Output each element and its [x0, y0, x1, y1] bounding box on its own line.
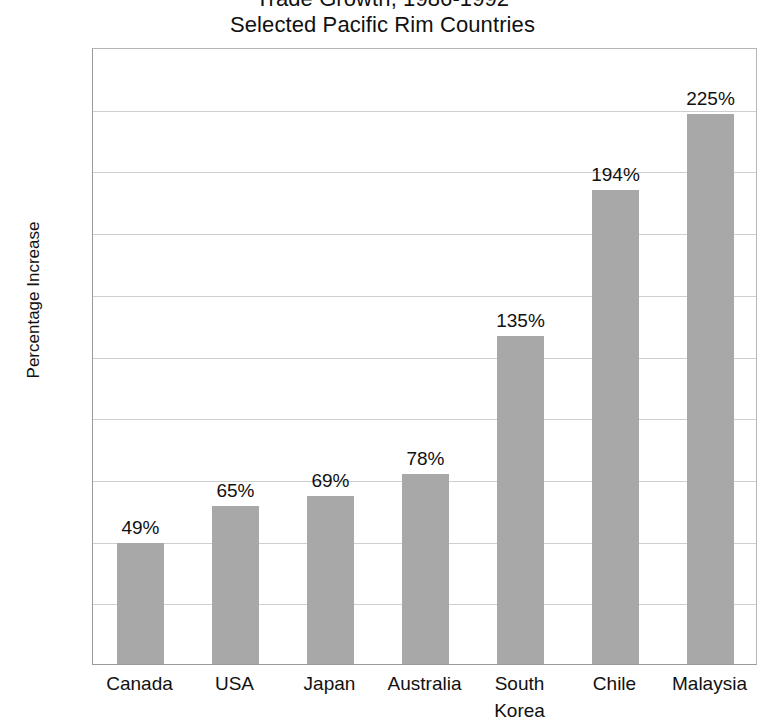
x-tick-label: USA	[187, 670, 282, 697]
plot-area: 49%65%69%78%135%194%225% %25022520017515…	[92, 48, 757, 665]
bar-value-label: 69%	[283, 470, 378, 492]
bar-value-label: 49%	[93, 517, 188, 539]
x-tick-label-text: Canada	[92, 670, 187, 697]
x-tick-label: Canada	[92, 670, 187, 697]
bar-value-labels: 49%65%69%78%135%194%225%	[93, 49, 756, 664]
x-tick-label-text: Australia	[377, 670, 472, 697]
bar-value-label: 65%	[188, 480, 283, 502]
bar-chart: Trade Growth, 1986-1992 Selected Pacific…	[0, 0, 765, 727]
x-tick-label-text: USA	[187, 670, 282, 697]
bar-value-label: 194%	[568, 164, 663, 186]
x-tick-label: Chile	[567, 670, 662, 697]
x-tick-label: Australia	[377, 670, 472, 697]
x-tick-label: Japan	[282, 670, 377, 697]
bar-value-label: 135%	[473, 310, 568, 332]
x-tick-label: SouthKorea	[472, 670, 567, 724]
chart-title-line-2: Selected Pacific Rim Countries	[0, 12, 765, 38]
bar-value-label: 78%	[378, 448, 473, 470]
bar-value-label: 225%	[663, 88, 758, 110]
y-axis-title: Percentage Increase	[24, 170, 44, 430]
x-tick-label-text: Malaysia	[662, 670, 757, 697]
x-tick-label-text: Chile	[567, 670, 662, 697]
x-tick-label: Malaysia	[662, 670, 757, 697]
x-tick-label-text: South	[472, 670, 567, 697]
x-tick-label-text: Japan	[282, 670, 377, 697]
chart-title-line-1: Trade Growth, 1986-1992	[0, 0, 765, 12]
chart-title: Trade Growth, 1986-1992 Selected Pacific…	[0, 0, 765, 38]
x-tick-label-text: Korea	[472, 697, 567, 724]
